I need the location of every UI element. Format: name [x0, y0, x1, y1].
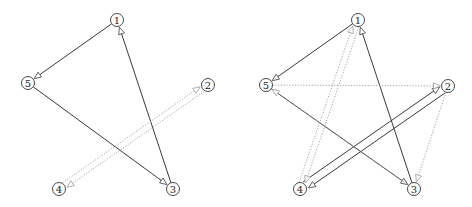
node-label: 5	[263, 80, 269, 91]
edge-1-to-5	[34, 24, 112, 79]
arrowhead-icon	[160, 178, 167, 185]
right-graph-node-4: 4	[294, 183, 307, 196]
node-label: 3	[411, 184, 417, 195]
arrowhead-icon	[272, 89, 279, 95]
edge-5-to-2	[272, 83, 440, 89]
arrowhead-icon	[360, 27, 366, 35]
node-label: 2	[205, 80, 211, 91]
arrowhead-icon	[193, 87, 200, 93]
left-graph-node-2: 2	[202, 79, 215, 92]
edge-1-to-4	[305, 27, 359, 183]
node-label: 4	[297, 184, 303, 195]
node-label: 2	[445, 81, 451, 92]
edge-1-to-5	[272, 24, 353, 81]
right-graph-node-3: 3	[408, 183, 421, 196]
edge-3-to-1	[360, 27, 412, 183]
edge-2-to-3	[416, 92, 446, 182]
left-graph-node-3: 3	[167, 183, 180, 196]
node-label: 1	[355, 15, 361, 26]
right-graph-node-2: 2	[442, 80, 455, 93]
arrowhead-icon	[416, 174, 422, 182]
node-label: 1	[114, 15, 120, 26]
right-graph-node-5: 5	[260, 79, 273, 92]
edge-4-to-1	[299, 26, 353, 182]
edge-2-to-4	[67, 91, 205, 187]
arrowhead-icon	[308, 182, 315, 188]
arrowhead-icon	[119, 27, 125, 35]
arrowhead-icon	[400, 178, 407, 184]
node-label: 4	[56, 184, 62, 195]
left-graph-edges	[33, 24, 204, 187]
edge-3-to-1	[119, 27, 171, 183]
node-label: 5	[25, 78, 31, 89]
edges-layer	[33, 24, 446, 188]
right-graph-edges	[271, 24, 446, 188]
graph-canvas: 1234512345	[0, 0, 472, 207]
node-label: 3	[170, 184, 176, 195]
left-graph-node-1: 1	[111, 14, 124, 27]
edge-4-to-2	[303, 87, 440, 182]
left-graph-node-4: 4	[53, 183, 66, 196]
edge-4-to-2	[63, 87, 201, 183]
left-graph-node-5: 5	[22, 77, 35, 90]
edge-2-to-4	[308, 93, 445, 188]
nodes-layer: 1234512345	[22, 14, 455, 196]
arrowhead-icon	[67, 181, 74, 187]
edge-5-to-3	[33, 87, 167, 185]
right-graph-node-1: 1	[352, 14, 365, 27]
arrowhead-icon	[272, 74, 279, 80]
arrowhead-icon	[305, 175, 311, 183]
arrowhead-icon	[34, 72, 41, 78]
